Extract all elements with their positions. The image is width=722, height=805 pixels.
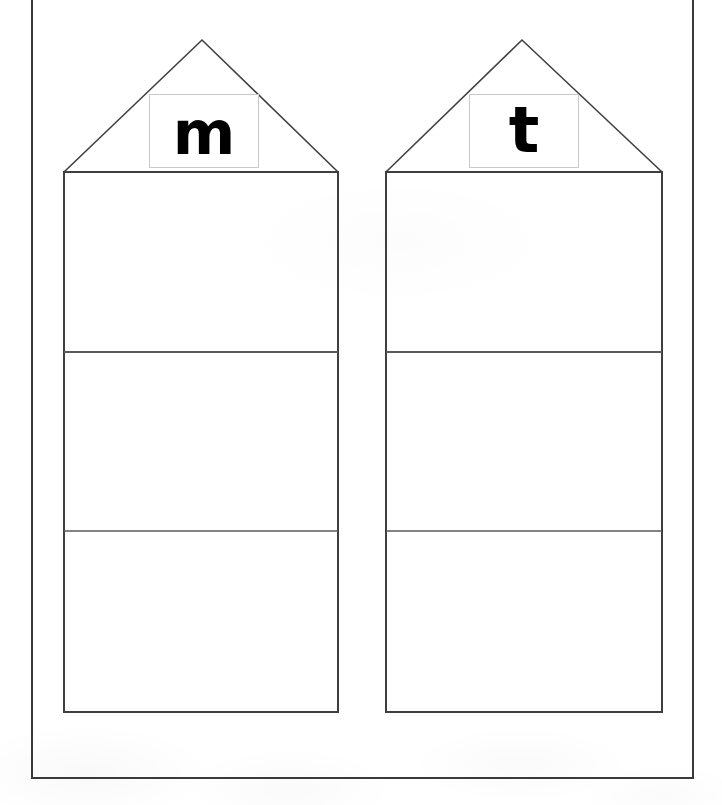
house-m-body-outline <box>64 172 338 712</box>
outer-page-border-path <box>32 0 693 778</box>
outer-page-border <box>32 0 693 778</box>
letter-box-m: m <box>149 94 259 168</box>
letter-box-t: t <box>469 94 579 168</box>
letter-glyph-t: t <box>509 98 540 162</box>
worksheet-page: m t <box>0 0 722 805</box>
worksheet-drawing <box>0 0 722 805</box>
house-t-body-outline <box>386 172 662 712</box>
letter-glyph-m: m <box>173 103 236 163</box>
